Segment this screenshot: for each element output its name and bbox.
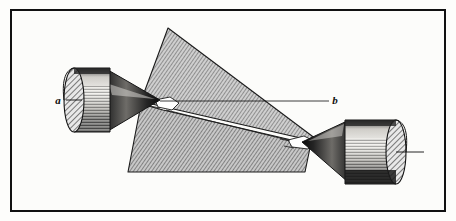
label-a: a bbox=[55, 94, 61, 106]
figure-plate: a b bbox=[0, 0, 456, 221]
right-barrel-bottom-shadow bbox=[345, 170, 396, 184]
label-b: b bbox=[332, 94, 338, 106]
right-barrel-top-shadow bbox=[345, 120, 396, 126]
right-cone-holder bbox=[302, 120, 407, 184]
left-barrel-top-shadow bbox=[74, 68, 110, 74]
engraving-illustration: a b bbox=[0, 0, 456, 221]
